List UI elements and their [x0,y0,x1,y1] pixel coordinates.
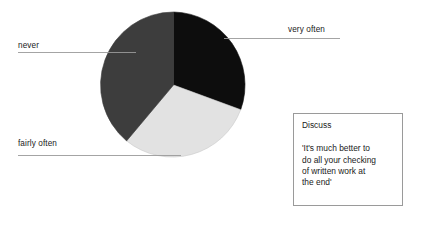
pie-label-very-often: very often [288,26,325,34]
pie-chart-figure: very often never fairly often Discuss 'I… [0,0,430,228]
discuss-quote: 'It's much better to do all your checkin… [302,143,394,187]
pie-label-fairly-often: fairly often [18,140,57,148]
discuss-box: Discuss 'It's much better to do all your… [293,113,403,206]
pie-label-never: never [18,42,39,50]
discuss-title: Discuss [302,121,394,129]
